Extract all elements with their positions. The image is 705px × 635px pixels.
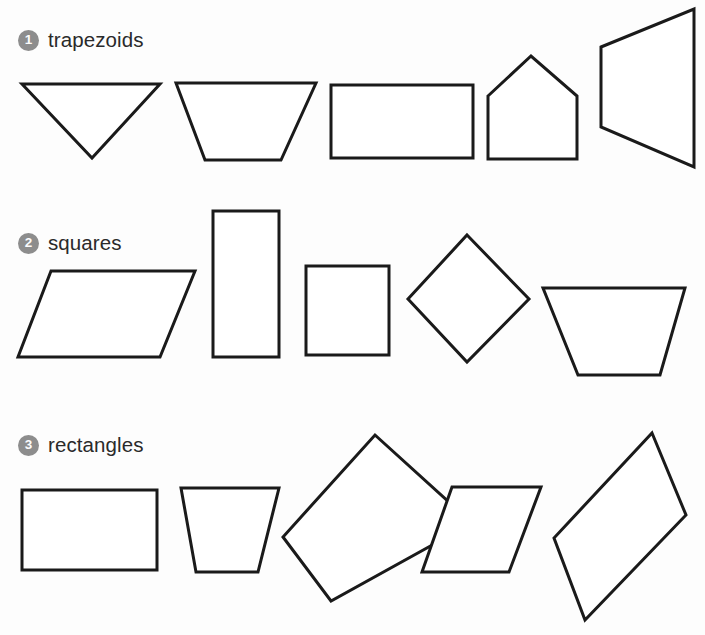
shape-trapezoid-wide-top [176,83,316,160]
shape-parallelogram-tilted-tall [554,433,686,620]
geometric-shapes-layer [0,0,705,635]
shape-trapezoid-wide-top-2 [543,288,685,375]
row-number-badge-1: 1 [18,30,39,51]
shape-rectangle-tall-vertical [213,211,279,357]
row-label-1: 1 trapezoids [18,28,144,52]
shape-square-rotated-diamond [408,235,529,362]
row-title-2: squares [48,231,122,255]
shape-parallelogram-wide [18,271,195,357]
worksheet-canvas: 1 trapezoids 2 squares 3 rectangles [0,0,705,635]
shape-square-upright [306,266,389,355]
shape-trapezoid-rotated-right [601,9,694,167]
shape-rectangle-tilted [283,435,472,601]
shape-trapezoid-wide-top-3 [181,488,279,572]
shape-downward-triangle [22,84,160,158]
row-number-badge-2: 2 [18,233,39,254]
row-title-1: trapezoids [48,28,144,52]
row-number-badge-3: 3 [18,435,39,456]
shape-rectangle-horizontal [331,85,473,158]
shape-rectangle-horizontal-2 [22,490,157,570]
shape-pentagon-house [488,56,577,159]
row-title-3: rectangles [48,433,144,457]
row-label-2: 2 squares [18,231,122,255]
shape-parallelogram-slanted [422,487,541,572]
row-label-3: 3 rectangles [18,433,144,457]
